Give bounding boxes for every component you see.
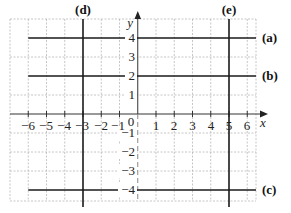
- y-tick-label: 4: [129, 30, 136, 45]
- line-label-d: (d): [75, 2, 91, 17]
- x-tick-label: 5: [226, 118, 233, 133]
- x-tick-label: 4: [208, 118, 215, 133]
- y-tick-label: −3: [121, 163, 135, 178]
- y-tick-label: −1: [121, 125, 135, 140]
- x-tick-label: −4: [57, 118, 71, 133]
- x-tick-label: 2: [171, 118, 178, 133]
- y-tick-label: −4: [121, 182, 135, 197]
- x-tick-label: −2: [94, 118, 108, 133]
- y-tick-label: 2: [129, 68, 136, 83]
- line-label-a: (a): [262, 30, 277, 45]
- x-tick-label: 6: [244, 118, 251, 133]
- y-tick-label: 1: [129, 87, 136, 102]
- y-tick-label: 3: [129, 49, 136, 64]
- x-axis-label: x: [259, 115, 266, 130]
- x-tick-label: 1: [153, 118, 160, 133]
- x-tick-label: 3: [189, 118, 196, 133]
- x-tick-label: −6: [21, 118, 35, 133]
- line-label-e: (e): [222, 2, 236, 17]
- y-tick-label: −2: [121, 144, 135, 159]
- x-tick-label: −3: [75, 118, 89, 133]
- coordinate-plane: −6 −5 −4 −3 −2 −1 0 1 2 3 4 5 6 4 3 2 1 …: [0, 0, 291, 213]
- plotted-lines: [28, 19, 256, 207]
- y-axis-label: y: [125, 15, 133, 30]
- y-axis-arrow-icon: [135, 11, 142, 19]
- x-tick-label: −5: [39, 118, 53, 133]
- line-label-b: (b): [262, 68, 278, 83]
- line-label-c: (c): [262, 182, 276, 197]
